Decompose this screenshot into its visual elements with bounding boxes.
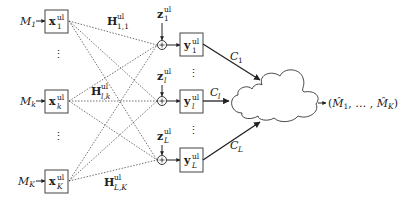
input-row-k: Mk x ul k bbox=[19, 90, 68, 113]
channel-label-l-k: H ul l,k bbox=[91, 82, 111, 101]
svg-text:L,K: L,K bbox=[113, 183, 127, 192]
noise-label-L: z bbox=[157, 130, 163, 143]
svg-text:l: l bbox=[218, 92, 221, 101]
message-label-1: M1 bbox=[19, 15, 36, 29]
decoded-messages-label: (M̂1, … , M̂K) bbox=[328, 97, 398, 111]
svg-text:l: l bbox=[164, 76, 167, 85]
transmit-signal-sub-k: k bbox=[57, 102, 62, 111]
svg-text:ul: ul bbox=[114, 173, 122, 182]
noise-label-1: z bbox=[157, 8, 163, 21]
vdots-input-upper: ⋮ bbox=[53, 48, 64, 61]
svg-text:ul: ul bbox=[192, 37, 200, 46]
fronthaul-label-L: C L bbox=[230, 139, 243, 154]
svg-text:L: L bbox=[163, 136, 169, 145]
svg-text:H: H bbox=[107, 15, 117, 28]
vdots-output-upper: ⋮ bbox=[188, 67, 199, 80]
svg-text:y: y bbox=[183, 95, 191, 108]
svg-text:1: 1 bbox=[164, 14, 169, 23]
svg-text:ul: ul bbox=[101, 82, 109, 91]
svg-text:ul: ul bbox=[164, 67, 172, 76]
channel-label-1-1: H ul 1,1 bbox=[107, 12, 129, 31]
noise-label-l: z bbox=[157, 70, 163, 83]
svg-text:l,k: l,k bbox=[101, 92, 111, 101]
svg-text:y: y bbox=[183, 154, 191, 167]
input-row-1: M1 x ul 1 bbox=[19, 10, 68, 33]
transmit-signal-sub-K: K bbox=[56, 182, 63, 191]
svg-text:ul: ul bbox=[164, 127, 172, 136]
transmit-signal-label-K: x bbox=[49, 175, 56, 188]
transmit-signal-sup-K: ul bbox=[57, 173, 65, 182]
message-label-K: MK bbox=[17, 175, 35, 189]
svg-text:H: H bbox=[104, 176, 114, 189]
svg-text:1: 1 bbox=[192, 46, 197, 55]
cloud-processor-icon bbox=[232, 70, 318, 122]
channel-links bbox=[69, 21, 157, 181]
svg-text:y: y bbox=[183, 39, 191, 52]
input-row-K: MK x ul K bbox=[17, 170, 68, 193]
svg-text:L: L bbox=[191, 161, 197, 170]
svg-text:1,1: 1,1 bbox=[117, 22, 129, 31]
receiver-row-1: z ul 1 y ul 1 bbox=[157, 5, 203, 56]
svg-text:1: 1 bbox=[238, 56, 243, 65]
fronthaul-label-l: C l bbox=[210, 86, 221, 101]
vdots-output-lower: ⋮ bbox=[188, 124, 199, 137]
svg-text:L: L bbox=[237, 145, 243, 154]
transmit-signal-label-1: x bbox=[49, 15, 56, 28]
transmit-signal-sup-k: ul bbox=[57, 93, 65, 102]
svg-text:ul: ul bbox=[192, 152, 200, 161]
svg-text:H: H bbox=[91, 85, 101, 98]
vdots-input-lower: ⋮ bbox=[53, 130, 64, 143]
channel-label-L-K: H ul L,K bbox=[104, 173, 127, 192]
transmit-signal-sup-1: ul bbox=[57, 13, 65, 22]
fronthaul-label-1: C 1 bbox=[230, 50, 243, 65]
cran-uplink-diagram: M1 x ul 1 ⋮ Mk x ul k ⋮ MK x ul K H ul 1… bbox=[0, 0, 404, 205]
svg-text:ul: ul bbox=[164, 5, 172, 14]
svg-text:ul: ul bbox=[117, 12, 125, 21]
transmit-signal-label-k: x bbox=[49, 95, 56, 108]
svg-text:ul: ul bbox=[192, 93, 200, 102]
message-label-k: Mk bbox=[19, 95, 36, 109]
transmit-signal-sub-1: 1 bbox=[57, 22, 62, 31]
